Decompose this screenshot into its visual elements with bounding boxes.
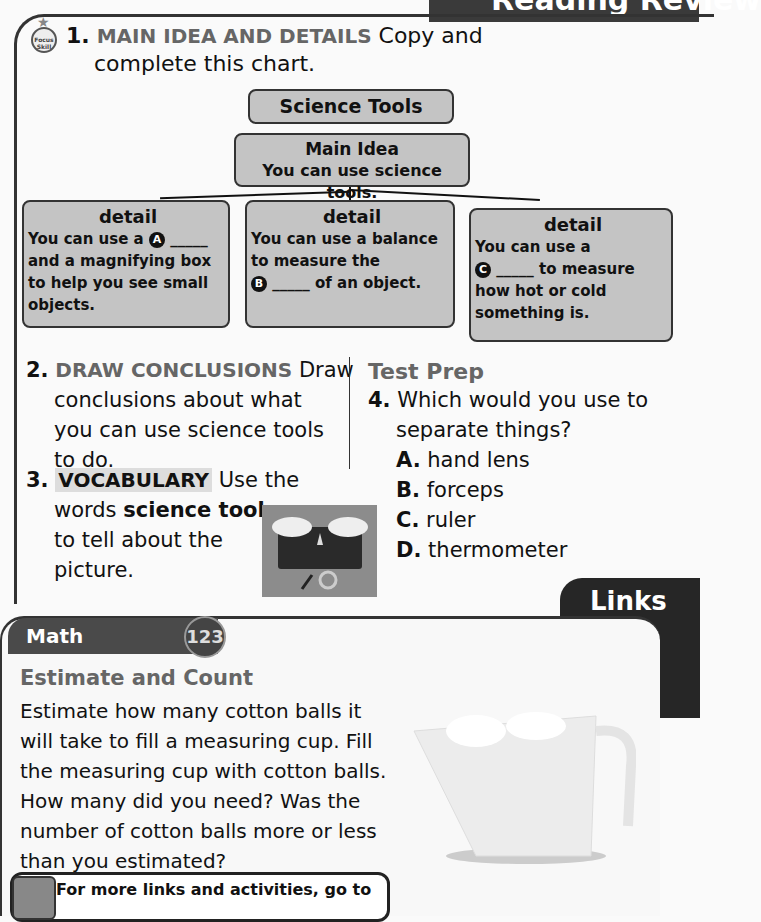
vocabulary-label: VOCABULARY (55, 468, 212, 492)
more-links-text[interactable]: For more links and activities, go to (56, 880, 371, 899)
option-d: D. thermometer (396, 535, 567, 565)
detail-box-b: detail You can use a balance to measure … (245, 200, 455, 328)
option-c: C. ruler (396, 505, 475, 535)
main-idea-box: Main Idea You can use science tools. (234, 133, 470, 187)
marker-a: A (149, 232, 165, 248)
balance-photo (262, 505, 377, 597)
measuring-cup-photo (406, 706, 636, 866)
chart-title-box: Science Tools (248, 89, 454, 124)
activity-body: Estimate how many cotton balls it will t… (20, 696, 390, 876)
marker-b: B (251, 276, 267, 292)
focus-skill-badge-icon: ★ FocusSkill (31, 27, 57, 53)
activity-title: Estimate and Count (20, 666, 253, 690)
skill-label: MAIN IDEA AND DETAILS (97, 24, 372, 48)
detail-box-c: detail You can use a C _____ to measure … (469, 208, 673, 342)
option-b: B. forceps (396, 475, 504, 505)
numbers-123-icon: 123 (184, 616, 226, 658)
skill-label: DRAW CONCLUSIONS (55, 358, 292, 382)
column-divider (349, 357, 350, 469)
option-a: A. hand lens (396, 445, 530, 475)
test-prep-title: Test Prep (368, 357, 484, 387)
detail-box-a: detail You can use a A _____ and a magni… (22, 200, 230, 328)
links-icon (12, 876, 56, 920)
marker-c: C (475, 262, 491, 278)
question-number: 1. (66, 23, 90, 48)
